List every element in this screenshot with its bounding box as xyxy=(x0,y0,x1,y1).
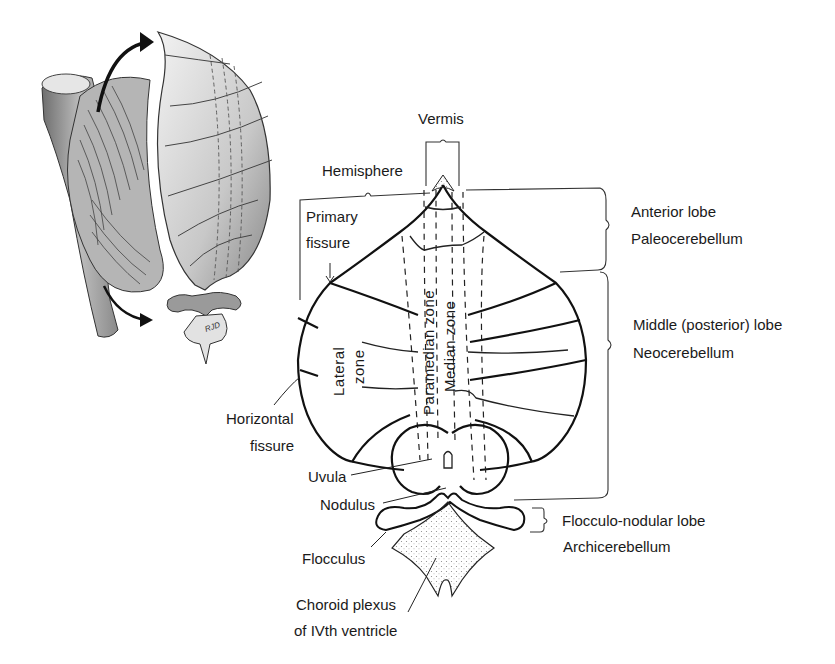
arrow-head-icon xyxy=(140,32,154,52)
inset-illustration: RJD xyxy=(42,32,272,364)
cerebellum-diagram: RJD xyxy=(0,0,835,664)
label-choroid-plexus-2: of IVth ventricle xyxy=(294,622,397,639)
label-paramedian-zone: Paramedian zone xyxy=(420,290,437,415)
tonsils xyxy=(392,425,508,494)
label-horizontal-fissure-2: fissure xyxy=(250,437,294,454)
arrow-head-icon xyxy=(140,313,153,327)
horizontal-fissure-leader xyxy=(274,377,300,405)
label-primary-fissure-1: Primary xyxy=(306,208,358,225)
label-vermis: Vermis xyxy=(418,110,464,127)
label-flocculonodular-lobe: Flocculo-nodular lobe xyxy=(562,512,705,529)
label-choroid-plexus-1: Choroid plexus xyxy=(296,596,396,613)
label-horizontal-fissure-1: Horizontal xyxy=(226,410,294,427)
flocculonodular-bracket xyxy=(530,508,547,532)
flocculus-leader xyxy=(371,532,386,547)
label-anterior-lobe: Anterior lobe xyxy=(631,203,716,220)
label-paleocerebellum: Paleocerebellum xyxy=(631,230,743,247)
label-primary-fissure-2: fissure xyxy=(306,234,350,251)
label-middle-lobe: Middle (posterior) lobe xyxy=(633,316,782,333)
label-nodulus: Nodulus xyxy=(320,496,375,513)
anterior-lobe-bracket xyxy=(466,188,609,272)
label-hemisphere: Hemisphere xyxy=(322,162,403,179)
label-median-zone: Median zone xyxy=(441,301,458,392)
folium-lines xyxy=(362,207,574,416)
middle-lobe-bracket xyxy=(514,272,611,500)
uvula-shape xyxy=(444,452,452,469)
label-uvula: Uvula xyxy=(308,468,347,485)
vermis-tip xyxy=(432,175,454,191)
label-flocculus: Flocculus xyxy=(302,550,365,567)
label-archicerebellum: Archicerebellum xyxy=(563,538,671,555)
label-lateral-zone-1: Lateral xyxy=(330,347,347,396)
label-lateral-zone-2: zone xyxy=(350,349,367,384)
label-neocerebellum: Neocerebellum xyxy=(633,344,734,361)
